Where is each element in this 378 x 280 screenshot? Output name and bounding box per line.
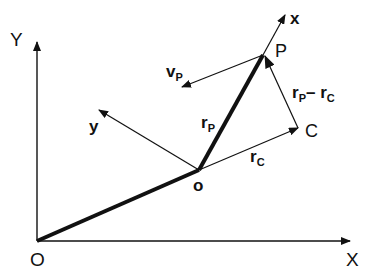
diagram-canvas bbox=[0, 0, 378, 280]
local-origin-label: o bbox=[193, 177, 203, 194]
local-y-axis bbox=[99, 110, 199, 170]
origin-offset-vector bbox=[37, 170, 199, 241]
point-c-label: C bbox=[305, 122, 318, 140]
local-y-axis-label: y bbox=[89, 118, 98, 135]
local-x-axis-label: x bbox=[290, 10, 299, 27]
rc-vector bbox=[199, 128, 298, 170]
rp-label: rP bbox=[201, 114, 215, 131]
vector-diagram: Y X O o x y P C vP rP rC rP– rC bbox=[0, 0, 378, 280]
rc-label: rC bbox=[250, 148, 265, 165]
global-y-axis-label: Y bbox=[10, 30, 23, 49]
velocity-vector bbox=[182, 55, 263, 87]
velocity-label: vP bbox=[166, 63, 183, 80]
point-p-label: P bbox=[275, 42, 287, 60]
global-origin-label: O bbox=[30, 250, 45, 269]
global-x-axis-label: X bbox=[346, 250, 359, 269]
rp-minus-rc-label: rP– rC bbox=[292, 84, 335, 101]
